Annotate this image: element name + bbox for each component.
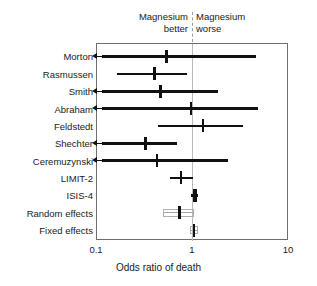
annotation-magnesium-better: Magnesium better xyxy=(110,11,188,34)
x-tick-label: 10 xyxy=(283,244,294,255)
confidence-interval-line xyxy=(158,125,243,128)
x-axis-title: Odds ratio of death xyxy=(0,262,317,273)
study-label: Morton xyxy=(63,51,93,62)
plot-area: MortonRasmussenSmithAbrahamFeldstedtShec… xyxy=(96,43,288,240)
point-estimate-marker xyxy=(178,206,181,219)
point-estimate-marker xyxy=(153,67,156,80)
point-estimate-marker xyxy=(144,137,147,150)
study-label: Ceremuzynski xyxy=(33,155,93,166)
study-label: Abraham xyxy=(54,103,93,114)
point-estimate-marker xyxy=(202,119,205,132)
point-estimate-marker xyxy=(193,189,196,202)
confidence-interval-line xyxy=(117,73,188,76)
point-estimate-marker xyxy=(156,154,159,167)
header-divider-line xyxy=(192,12,193,42)
confidence-interval-line xyxy=(102,142,177,145)
x-tick-label: 0.1 xyxy=(89,244,102,255)
forest-plot-figure: Magnesium better Magnesium worse MortonR… xyxy=(0,0,317,286)
point-estimate-marker xyxy=(180,171,183,184)
study-label: Random effects xyxy=(27,207,93,218)
point-estimate-marker xyxy=(193,224,196,237)
study-label: ISIS-4 xyxy=(67,190,93,201)
study-label: Feldstedt xyxy=(54,120,93,131)
study-label: Smith xyxy=(69,86,93,97)
study-label: Fixed effects xyxy=(39,225,93,236)
x-tick-label: 1 xyxy=(189,244,194,255)
confidence-interval-line xyxy=(102,55,256,58)
confidence-interval-line xyxy=(102,107,258,110)
point-estimate-marker xyxy=(159,85,162,98)
point-estimate-marker xyxy=(165,50,168,63)
point-estimate-marker xyxy=(190,102,193,115)
confidence-interval-line xyxy=(102,159,228,162)
study-label: Rasmussen xyxy=(43,68,93,79)
study-label: LIMIT-2 xyxy=(61,172,93,183)
study-label: Shechter xyxy=(55,138,93,149)
annotation-magnesium-worse: Magnesium worse xyxy=(196,11,282,34)
